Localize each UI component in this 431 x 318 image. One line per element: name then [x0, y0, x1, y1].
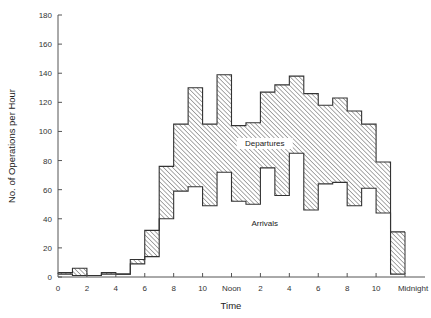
- y-tick-label: 180: [39, 11, 53, 20]
- x-tick-label: 10: [198, 284, 207, 293]
- operations-per-hour-chart: 020406080100120140160180 0246810Noon2468…: [0, 0, 431, 318]
- x-tick-label: Midnight: [398, 284, 429, 293]
- x-axis-title: Time: [221, 300, 242, 311]
- y-tick-label: 20: [43, 244, 52, 253]
- y-axis: 020406080100120140160180: [39, 11, 62, 282]
- y-tick-label: 160: [39, 40, 53, 49]
- x-tick-label: 8: [171, 284, 176, 293]
- x-tick-label: 4: [114, 284, 119, 293]
- x-tick-label: 2: [85, 284, 90, 293]
- x-tick-label: 8: [345, 284, 350, 293]
- y-axis-title: No. of Operations per Hour: [6, 89, 17, 203]
- x-tick-label: 0: [56, 284, 61, 293]
- x-tick-label: 6: [143, 284, 148, 293]
- x-tick-label: 4: [287, 284, 292, 293]
- x-axis: 0246810Noon246810Midnight: [56, 273, 429, 293]
- y-tick-label: 60: [43, 186, 52, 195]
- y-tick-label: 140: [39, 69, 53, 78]
- x-tick-label: 10: [372, 284, 381, 293]
- y-tick-label: 0: [48, 273, 53, 282]
- y-tick-label: 100: [39, 127, 53, 136]
- y-tick-label: 120: [39, 98, 53, 107]
- plot-area: [58, 75, 405, 276]
- y-tick-label: 40: [43, 215, 52, 224]
- x-tick-label: Noon: [222, 284, 241, 293]
- arrivals-label: Arrivals: [251, 219, 278, 228]
- x-tick-label: 2: [258, 284, 263, 293]
- y-tick-label: 80: [43, 157, 52, 166]
- departures-label: Departures: [245, 139, 285, 148]
- x-tick-label: 6: [316, 284, 321, 293]
